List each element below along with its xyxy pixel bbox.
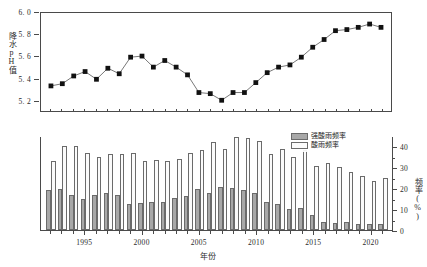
ph-axis-title: 降水pH值 xyxy=(6,32,17,74)
ph-x-tick-mark xyxy=(84,109,85,112)
ph-data-point xyxy=(49,84,54,89)
ph-data-point xyxy=(333,28,338,33)
year-major-tick xyxy=(84,231,85,235)
strong-acid-frequency-bar xyxy=(310,215,315,230)
ph-y-tick-mark xyxy=(34,79,39,80)
strong-acid-frequency-bar xyxy=(333,223,338,230)
ph-data-point xyxy=(128,55,133,60)
ph-x-tick-mark xyxy=(256,109,257,112)
year-tick-label: 2005 xyxy=(191,238,207,247)
year-minor-tick xyxy=(176,231,177,234)
acid-frequency-bar xyxy=(337,167,342,230)
ph-data-point xyxy=(356,25,361,30)
ph-x-tick-mark xyxy=(245,109,246,112)
ph-x-tick-mark xyxy=(382,109,383,112)
frequency-y-tick-label: 10 xyxy=(400,206,408,215)
ph-y-tick-mark xyxy=(34,101,39,102)
ph-y-tick-label: 5. 6 xyxy=(19,52,31,61)
ph-x-tick-mark xyxy=(210,109,211,112)
acid-frequency-bar xyxy=(154,160,159,230)
acid-frequency-bar xyxy=(188,153,193,230)
ph-data-point xyxy=(162,58,167,63)
year-minor-tick xyxy=(187,231,188,234)
ph-y-tick-label: 5. 2 xyxy=(19,96,31,105)
figure-container: 降水pH值 5. 25. 45. 65. 86. 0 010203040 199… xyxy=(0,0,427,267)
strong-acid-frequency-bar xyxy=(298,208,303,230)
ph-y-tick-label: 5. 4 xyxy=(19,74,31,83)
ph-x-tick-mark xyxy=(153,109,154,112)
ph-x-tick-mark xyxy=(233,109,234,112)
acid-frequency-bar xyxy=(211,142,216,230)
frequency-y-tick-label: 20 xyxy=(400,185,408,194)
strong-acid-frequency-bar xyxy=(115,195,120,231)
acid-frequency-bar xyxy=(223,149,228,230)
ph-data-point xyxy=(276,65,281,70)
acid-frequency-bar xyxy=(303,150,308,230)
strong-acid-frequency-bar xyxy=(321,222,326,230)
legend-label-acid: 酸雨频率 xyxy=(311,141,339,151)
strong-acid-frequency-bar xyxy=(81,199,86,230)
ph-data-point xyxy=(310,45,315,50)
year-tick-label: 2020 xyxy=(362,238,378,247)
year-minor-tick xyxy=(210,231,211,234)
year-minor-tick xyxy=(119,231,120,234)
year-major-tick xyxy=(142,231,143,235)
acid-frequency-bar xyxy=(108,154,113,230)
strong-acid-frequency-bar xyxy=(378,224,383,230)
acid-frequency-bar xyxy=(269,154,274,230)
year-minor-tick xyxy=(222,231,223,234)
year-tick-label: 2000 xyxy=(133,238,149,247)
ph-x-tick-mark xyxy=(119,109,120,112)
ph-data-point xyxy=(299,55,304,60)
ph-data-point xyxy=(219,98,224,103)
ph-x-tick-mark xyxy=(61,109,62,112)
ph-data-point xyxy=(174,65,179,70)
ph-x-tick-mark xyxy=(290,109,291,112)
strong-acid-frequency-bar xyxy=(138,203,143,230)
year-minor-tick xyxy=(61,231,62,234)
frequency-y-minor-tick xyxy=(392,221,395,222)
legend-swatch-strong-acid xyxy=(291,133,308,140)
strong-acid-frequency-bar xyxy=(149,202,154,230)
legend-item-strong-acid: 强酸雨频率 xyxy=(291,132,346,142)
strong-acid-frequency-bar xyxy=(195,189,200,230)
ph-chart-panel xyxy=(40,12,392,112)
year-major-tick xyxy=(313,231,314,235)
strong-acid-frequency-bar xyxy=(69,195,74,231)
acid-frequency-bar xyxy=(97,157,102,230)
strong-acid-frequency-bar xyxy=(161,202,166,230)
year-minor-tick xyxy=(348,231,349,234)
ph-x-tick-mark xyxy=(279,109,280,112)
year-tick-label: 1995 xyxy=(76,238,92,247)
acid-frequency-bar xyxy=(165,161,170,230)
year-minor-tick xyxy=(359,231,360,234)
year-minor-tick xyxy=(96,231,97,234)
year-minor-tick xyxy=(233,231,234,234)
year-minor-tick xyxy=(290,231,291,234)
ph-x-tick-mark xyxy=(107,109,108,112)
acid-frequency-bar xyxy=(314,166,319,230)
ph-data-point xyxy=(197,90,202,95)
frequency-y-minor-tick xyxy=(392,158,395,159)
ph-data-point xyxy=(242,90,247,95)
ph-data-point xyxy=(94,77,99,82)
acid-frequency-bar xyxy=(372,181,377,230)
ph-y-tick-label: 5. 8 xyxy=(19,30,31,39)
year-minor-tick xyxy=(165,231,166,234)
ph-x-tick-mark xyxy=(325,109,326,112)
frequency-y-tick-mark xyxy=(392,231,397,232)
ph-x-tick-mark xyxy=(73,109,74,112)
ph-x-tick-mark xyxy=(313,109,314,112)
acid-frequency-bar xyxy=(326,163,331,230)
strong-acid-frequency-bar xyxy=(230,188,235,230)
ph-data-point xyxy=(71,74,76,79)
frequency-y-tick-mark xyxy=(392,168,397,169)
ph-x-tick-mark xyxy=(268,109,269,112)
frequency-right-spine xyxy=(392,137,393,231)
acid-frequency-bar xyxy=(85,153,90,230)
acid-frequency-bar xyxy=(257,141,262,230)
acid-frequency-bar xyxy=(291,157,296,230)
ph-data-point xyxy=(117,71,122,76)
year-minor-tick xyxy=(279,231,280,234)
year-minor-tick xyxy=(73,231,74,234)
